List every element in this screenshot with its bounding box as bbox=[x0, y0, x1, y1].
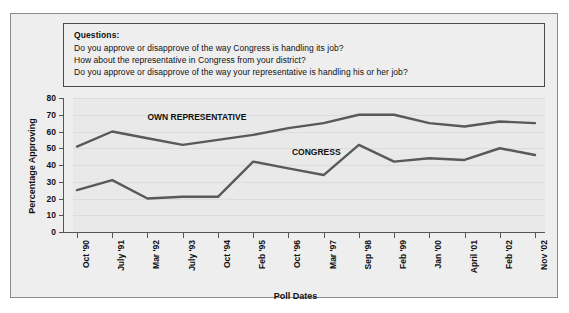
plot-canvas: OWN REPRESENTATIVE CONGRESS bbox=[73, 98, 545, 232]
x-axis-tick bbox=[183, 233, 184, 238]
x-axis-tick bbox=[288, 233, 289, 238]
x-axis-tick bbox=[253, 233, 254, 238]
x-axis-tick-label: Sep '98 bbox=[363, 240, 373, 269]
y-axis-tick-label: 20 bbox=[47, 194, 56, 204]
x-axis-tick bbox=[500, 233, 501, 238]
series-line bbox=[77, 115, 535, 147]
x-axis-tick-label: Feb '99 bbox=[398, 240, 408, 269]
x-axis-tick-label: Oct '94 bbox=[222, 240, 232, 268]
x-axis-tick-label: Jan '00 bbox=[433, 240, 443, 268]
x-axis-tick bbox=[535, 233, 536, 238]
x-axis-tick bbox=[429, 233, 430, 238]
y-axis-tick-label: 80 bbox=[47, 93, 56, 103]
x-axis-labels: Oct '90July '91Mar '92July '93Oct '94Feb… bbox=[63, 240, 546, 286]
y-axis-tick-label: 50 bbox=[47, 143, 56, 153]
y-axis-tick-label: 60 bbox=[47, 127, 56, 137]
x-axis-tick-label: Nov '02 bbox=[539, 240, 549, 270]
x-axis-tick-label: Mar '92 bbox=[151, 240, 161, 269]
x-axis-tick bbox=[465, 233, 466, 238]
x-axis-tick bbox=[112, 233, 113, 238]
x-axis-ticks bbox=[63, 233, 546, 239]
x-axis-title: Poll Dates bbox=[11, 291, 569, 301]
x-axis-tick bbox=[394, 233, 395, 238]
y-axis-tick-label: 30 bbox=[47, 177, 56, 187]
y-axis-tick-label: 10 bbox=[47, 210, 56, 220]
question-line-2: How about the representative in Congress… bbox=[74, 54, 544, 66]
x-axis-tick-label: Feb '95 bbox=[257, 240, 267, 269]
questions-box: Questions: Do you approve or disapprove … bbox=[63, 23, 545, 87]
x-axis-tick-label: Oct '90 bbox=[81, 240, 91, 268]
x-axis-tick-label: April '01 bbox=[469, 240, 479, 273]
series-label-congress: CONGRESS bbox=[292, 147, 341, 157]
question-line-1: Do you approve or disapprove of the way … bbox=[74, 42, 544, 54]
series-lines bbox=[73, 98, 545, 232]
x-axis-tick-label: Feb '02 bbox=[504, 240, 514, 269]
y-axis-tick-label: 70 bbox=[47, 110, 56, 120]
chart-page: Questions: Do you approve or disapprove … bbox=[0, 0, 569, 313]
x-axis-tick bbox=[359, 233, 360, 238]
x-axis-tick bbox=[218, 233, 219, 238]
y-axis-ticks: 01020304050607080 bbox=[11, 98, 64, 234]
series-label-own-representative: OWN REPRESENTATIVE bbox=[147, 112, 246, 122]
plot-area: OWN REPRESENTATIVE CONGRESS bbox=[63, 98, 545, 246]
y-axis-tick-label: 40 bbox=[47, 160, 56, 170]
chart-panel: Questions: Do you approve or disapprove … bbox=[10, 13, 558, 298]
question-line-3: Do you approve or disapprove of the way … bbox=[74, 66, 544, 78]
x-axis-tick bbox=[77, 233, 78, 238]
x-axis-tick-label: July '93 bbox=[187, 240, 197, 271]
x-axis-tick-label: Mar '97 bbox=[328, 240, 338, 269]
x-axis-tick-label: Oct '96 bbox=[292, 240, 302, 268]
x-axis-tick-label: July '91 bbox=[116, 240, 126, 271]
x-axis-tick bbox=[147, 233, 148, 238]
y-axis-tick-label: 0 bbox=[51, 227, 56, 237]
x-axis-tick bbox=[324, 233, 325, 238]
questions-heading: Questions: bbox=[74, 30, 544, 42]
